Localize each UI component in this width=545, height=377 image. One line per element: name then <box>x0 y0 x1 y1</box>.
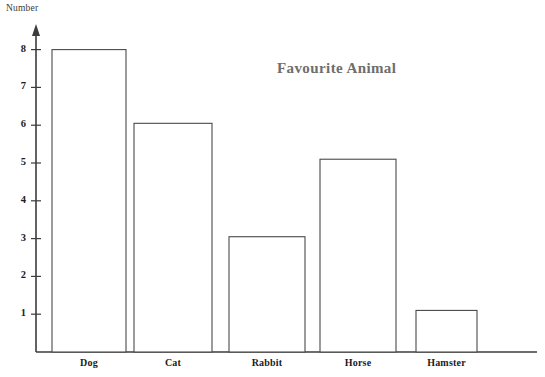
x-category-label: Horse <box>345 357 372 368</box>
y-tick-label: 1 <box>10 307 26 318</box>
x-category-label: Cat <box>165 357 181 368</box>
y-tick-label: 6 <box>10 118 26 129</box>
x-category-label: Hamster <box>427 357 466 368</box>
bar <box>134 123 212 352</box>
bar <box>229 237 305 352</box>
x-category-label: Dog <box>80 357 98 368</box>
y-tick-label: 3 <box>10 232 26 243</box>
x-category-label: Rabbit <box>252 357 283 368</box>
y-tick-label: 2 <box>10 269 26 280</box>
y-axis-arrowhead <box>32 24 40 36</box>
bar <box>320 159 396 352</box>
plot-area <box>0 0 545 377</box>
y-tick-label: 4 <box>10 194 26 205</box>
y-tick-label: 8 <box>10 43 26 54</box>
y-axis <box>32 24 40 352</box>
bar-chart: Number Favourite Animal 12345678 DogCatR… <box>0 0 545 377</box>
bar <box>52 50 126 352</box>
bar <box>416 310 477 352</box>
bar-group <box>52 50 477 352</box>
y-tick-label: 5 <box>10 156 26 167</box>
y-tick-label: 7 <box>10 80 26 91</box>
